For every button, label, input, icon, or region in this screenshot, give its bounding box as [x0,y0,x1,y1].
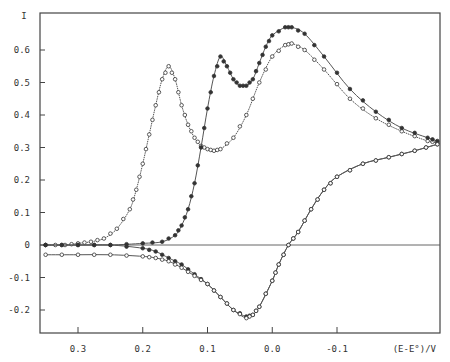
data-point-marker [83,241,87,245]
data-point-marker [160,240,164,244]
data-point-marker [313,58,317,62]
data-point-marker [387,118,391,122]
data-point-marker [296,45,300,49]
data-point-marker [180,103,184,107]
data-point-marker [202,126,206,130]
data-point-marker [225,64,229,68]
y-tick-label: 0.5 [14,78,30,88]
data-point-marker [222,60,226,64]
y-tick-label: 0.2 [14,175,30,185]
data-point-marker [92,243,96,247]
data-point-marker [199,278,203,282]
data-point-marker [322,55,326,59]
data-point-marker [186,207,190,211]
data-point-marker [254,69,258,73]
data-point-marker [212,74,216,78]
data-point-marker [134,188,138,192]
y-tick-label: -0.1 [8,273,30,283]
data-point-marker [251,77,255,81]
data-point-marker [290,25,294,29]
data-point-marker [400,126,404,130]
y-tick-label: 0.1 [14,208,30,218]
data-point-marker [219,55,223,59]
data-point-marker [361,99,365,103]
data-point-marker [264,292,268,296]
data-point-marker [335,82,339,86]
data-point-marker [109,243,113,247]
data-point-marker [89,240,93,244]
data-point-marker [287,243,291,247]
data-point-marker [296,230,300,234]
data-point-marker [296,29,300,33]
series-0 [44,42,439,247]
data-point-marker [131,198,135,202]
data-point-marker [228,71,232,75]
data-point-marker [303,219,307,223]
data-point-marker [102,237,106,241]
data-point-marker [400,152,404,156]
data-point-marker [258,81,262,85]
data-point-marker [245,113,249,117]
x-tick-label: 0.1 [199,344,215,354]
data-point-marker [125,245,129,249]
data-point-marker [167,259,171,263]
data-point-marker [374,159,378,163]
data-point-marker [348,168,352,172]
data-point-marker [215,64,219,68]
data-point-marker [177,229,181,233]
x-tick-label: -0.1 [326,344,348,354]
data-point-marker [387,123,391,127]
data-point-marker [180,266,184,270]
y-axis-title: I [21,11,26,21]
data-point-marker [183,113,187,117]
data-point-marker [316,198,320,202]
data-point-marker [141,242,145,246]
data-point-marker [277,49,281,53]
data-point-marker [303,32,307,36]
data-point-marker [261,53,265,57]
data-point-marker [322,188,326,192]
data-point-marker [109,232,113,236]
series-3 [44,142,439,319]
data-point-marker [160,77,164,81]
data-point-marker [270,279,274,283]
data-point-marker [186,123,190,127]
data-point-marker [313,43,317,47]
data-point-marker [173,77,177,81]
data-point-marker [348,97,352,101]
data-point-marker [164,71,168,75]
y-tick-label: 0.4 [14,110,30,120]
data-point-marker [160,258,164,262]
data-point-marker [436,142,440,146]
data-point-marker [157,90,161,94]
data-point-marker [196,164,200,168]
data-point-marker [173,263,177,267]
data-point-marker [154,103,158,107]
x-axis-title: (E-E°)/V [393,344,437,354]
data-point-marker [291,237,295,241]
data-point-marker [413,131,417,135]
data-point-marker [183,216,187,220]
data-point-marker [170,71,174,75]
data-point-marker [186,270,190,274]
data-point-marker [196,140,200,144]
data-point-marker [264,68,268,72]
x-tick-label: 0.3 [70,344,86,354]
data-point-marker [322,68,326,72]
data-point-marker [96,238,100,242]
y-tick-label: 0.6 [14,45,30,55]
data-point-marker [76,243,80,247]
data-point-marker [258,305,262,309]
data-point-marker [374,110,378,114]
data-point-marker [274,271,278,275]
data-point-marker [225,302,229,306]
data-point-marker [245,316,249,320]
data-point-marker [267,39,271,43]
data-point-marker [219,147,223,151]
data-point-marker [193,136,197,140]
data-point-marker [115,227,119,231]
data-point-marker [125,254,129,258]
data-point-marker [60,253,64,257]
data-point-marker [232,136,236,140]
series-2 [44,142,439,318]
